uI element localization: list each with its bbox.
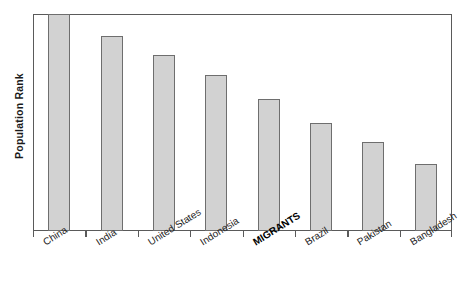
bar-chart: Population Rank ChinaIndiaUnited StatesI… xyxy=(0,0,469,293)
x-axis-tick xyxy=(243,231,244,237)
bar-pakistan xyxy=(362,142,384,231)
bar-china xyxy=(48,14,70,231)
x-axis-tick xyxy=(295,231,296,237)
x-axis-tick xyxy=(190,231,191,237)
bar-brazil xyxy=(310,123,332,232)
x-axis-tick xyxy=(33,231,34,237)
bar-india xyxy=(101,36,123,231)
y-axis-title: Population Rank xyxy=(13,51,25,181)
bar-indonesia xyxy=(205,75,227,231)
bar-united-states xyxy=(153,55,175,231)
x-axis-tick xyxy=(138,231,139,237)
x-axis-tick xyxy=(85,231,86,237)
bars-layer xyxy=(33,14,452,231)
x-axis-tick xyxy=(347,231,348,237)
bar-migrants xyxy=(258,99,280,231)
x-axis-tick xyxy=(400,231,401,237)
x-axis-tick xyxy=(451,231,452,237)
